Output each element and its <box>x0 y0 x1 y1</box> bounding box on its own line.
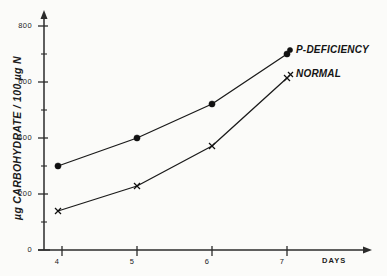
y-axis <box>41 10 48 250</box>
chart-plot-area <box>0 0 387 276</box>
x-axis-ticks <box>62 246 287 256</box>
legend-markers <box>287 47 293 77</box>
x-axis-title: DAYS <box>322 256 346 265</box>
chart-figure: 800 600 400 200 0 4 5 6 7 µg CARBOHYDRAT… <box>0 0 387 276</box>
data-point-p-deficiency <box>55 163 61 169</box>
x-axis <box>38 247 372 254</box>
y-axis-title: µg CARBOHYDRATE / 100 µg N <box>11 23 23 253</box>
data-point-p-deficiency <box>134 135 140 141</box>
x-tick-label-5: 5 <box>125 257 139 266</box>
data-point-p-deficiency <box>209 101 215 107</box>
x-tick-label-7: 7 <box>275 257 289 266</box>
series-normal <box>55 75 290 214</box>
x-tick-label-6: 6 <box>200 257 214 266</box>
legend-marker-cross-icon <box>288 72 293 77</box>
x-tick-label-4: 4 <box>50 257 64 266</box>
series-p-deficiency <box>55 51 290 169</box>
data-point-normal <box>209 143 215 149</box>
legend-label-p-deficiency: P-DEFICIENCY <box>296 44 369 55</box>
legend-label-normal: NORMAL <box>296 68 341 79</box>
legend-marker-filled-circle-icon <box>287 47 292 52</box>
y-axis-arrow-icon <box>41 10 48 19</box>
x-axis-arrow-icon <box>363 247 372 254</box>
